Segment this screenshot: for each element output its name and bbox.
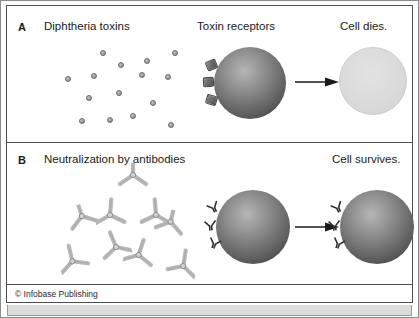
toxin-particle — [116, 90, 122, 96]
toxin-particle — [100, 50, 106, 56]
antibody-complex-field — [52, 163, 202, 278]
antibody — [65, 197, 97, 229]
panel-b-letter: B — [18, 154, 26, 166]
credit-divider — [7, 284, 412, 285]
panel-a-title: Diphtheria toxins — [44, 20, 130, 32]
toxin-particle — [65, 76, 71, 82]
panel-b-cell-group-middle — [203, 188, 295, 270]
receptor-free-m2 — [203, 219, 217, 231]
complex-right — [121, 201, 210, 287]
antibody — [156, 203, 187, 234]
panel-b: B Neutralization by antibodies Cell surv… — [7, 143, 412, 284]
toxin-particle-field — [62, 44, 197, 129]
bottom-strip — [7, 305, 412, 316]
panel-a: A Diphtheria toxins Toxin receptors Cell… — [7, 6, 412, 142]
toxin-particle — [150, 100, 156, 106]
toxin-particle — [79, 118, 85, 124]
panel-a-letter: A — [18, 21, 26, 33]
toxin-particle — [118, 62, 124, 68]
bound-toxin-node — [130, 172, 135, 177]
antibody — [52, 246, 88, 282]
toxin-particle — [165, 74, 171, 80]
arrow-panel-a — [295, 76, 339, 88]
target-cell-dead — [339, 47, 407, 115]
panel-a-label-outcome: Cell dies. — [340, 20, 387, 32]
toxin-particle — [172, 50, 178, 56]
toxin-particle — [130, 113, 136, 119]
protected-cell-middle — [216, 190, 290, 264]
toxin-particle — [144, 58, 150, 64]
receptor-bound-2 — [203, 77, 215, 88]
panel-a-cell-group — [203, 44, 293, 124]
antibody — [120, 163, 146, 184]
target-cell-alive — [214, 47, 286, 119]
panel-b-cell-group-right — [327, 188, 419, 270]
figure-root: A Diphtheria toxins Toxin receptors Cell… — [0, 0, 419, 318]
figure-box: A Diphtheria toxins Toxin receptors Cell… — [6, 5, 413, 303]
protected-cell-right — [340, 190, 414, 264]
receptor-free-r2 — [327, 219, 341, 231]
toxin-particle — [168, 122, 174, 128]
panel-a-label-toxin-receptors: Toxin receptors — [197, 20, 275, 32]
toxin-particle — [139, 72, 145, 78]
toxin-particle — [107, 117, 113, 123]
toxin-particle — [86, 95, 92, 101]
copyright-notice: © Infobase Publishing — [15, 289, 98, 299]
receptor-bound-3 — [205, 94, 218, 107]
antibody — [168, 250, 204, 286]
toxin-particle — [91, 73, 97, 79]
panel-b-label-outcome: Cell survives. — [332, 153, 400, 165]
